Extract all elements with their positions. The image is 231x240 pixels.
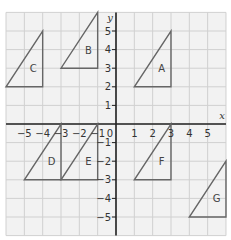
x-axis-label: x [219,110,225,121]
y-tick-label: 2 [105,81,111,92]
y-tick-label: 1 [105,100,111,111]
x-tick-label: −2 [72,128,87,139]
x-tick-label: 1 [131,128,137,139]
triangle-label: C [30,63,37,74]
y-tick-label: −3 [96,174,111,185]
y-tick-label: −4 [96,193,111,204]
x-tick-label: 5 [204,128,210,139]
x-tick-label: 2 [149,128,155,139]
y-tick-label: 3 [105,63,111,74]
triangle-label: D [48,156,56,167]
triangle-label: A [158,63,165,74]
y-tick-label: 5 [105,26,111,37]
triangle-label: G [213,193,221,204]
x-tick-label: 4 [186,128,192,139]
y-tick-label: 4 [105,44,111,55]
y-tick-label: −5 [96,212,111,223]
x-tick-label: −3 [54,128,69,139]
x-tick-label: 3 [168,128,174,139]
x-tick-label: −5 [17,128,32,139]
triangle-label: E [85,156,91,167]
triangle-label: F [159,156,165,167]
triangle-label: B [85,45,92,56]
coordinate-grid-diagram: ABCDEFG −5−4−3−2−11234554321−1−2−3−4−50x… [0,0,231,240]
origin-label: 0 [107,128,113,139]
x-tick-label: −4 [35,128,50,139]
y-axis-label: y [106,12,113,23]
y-tick-label: −2 [96,156,111,167]
